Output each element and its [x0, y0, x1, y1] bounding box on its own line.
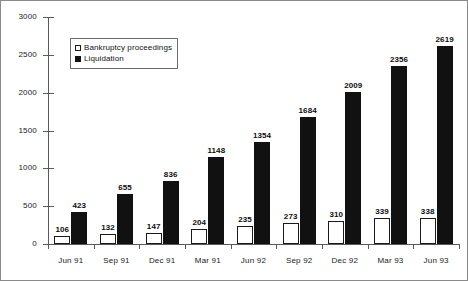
- x-axis-line: [48, 244, 459, 245]
- chart-legend: Bankruptcy proceedings Liquidation: [70, 38, 178, 69]
- legend-item-bankruptcy-proceedings: Bankruptcy proceedings: [75, 43, 172, 53]
- x-category-label: Dec 91: [139, 257, 185, 265]
- x-tick-mark: [413, 244, 414, 249]
- x-category-label: Sep 91: [94, 257, 140, 265]
- bar-liquidation: [437, 46, 453, 244]
- x-category-label: Jun 92: [231, 257, 277, 265]
- x-category-label: Mar 91: [185, 257, 231, 265]
- x-tick-mark: [459, 244, 460, 249]
- x-tick-mark: [185, 244, 186, 249]
- x-tick-mark: [322, 244, 323, 249]
- plot-area: 050010001500200025003000 106423132655147…: [1, 1, 468, 281]
- x-tick-mark: [48, 244, 49, 249]
- x-category-label: Mar 93: [368, 257, 414, 265]
- x-tick-mark: [276, 244, 277, 249]
- x-tick-mark: [368, 244, 369, 249]
- legend-label: Liquidation: [84, 55, 124, 63]
- bar-bankruptcy-proceedings: [420, 218, 436, 244]
- legend-item-liquidation: Liquidation: [75, 54, 172, 64]
- x-category-label: Sep 92: [276, 257, 322, 265]
- legend-label: Bankruptcy proceedings: [84, 44, 172, 52]
- bar-value-label: 338: [421, 208, 435, 216]
- x-tick-mark: [139, 244, 140, 249]
- x-category-label: Dec 92: [322, 257, 368, 265]
- x-category-label: Jun 93: [413, 257, 459, 265]
- chart-figure: 050010001500200025003000 106423132655147…: [0, 0, 468, 281]
- bar-value-label: 2619: [436, 36, 454, 44]
- x-tick-mark: [94, 244, 95, 249]
- legend-swatch-filled-icon: [75, 56, 81, 62]
- legend-swatch-open-icon: [75, 45, 81, 51]
- x-category-label: Jun 91: [48, 257, 94, 265]
- x-tick-mark: [231, 244, 232, 249]
